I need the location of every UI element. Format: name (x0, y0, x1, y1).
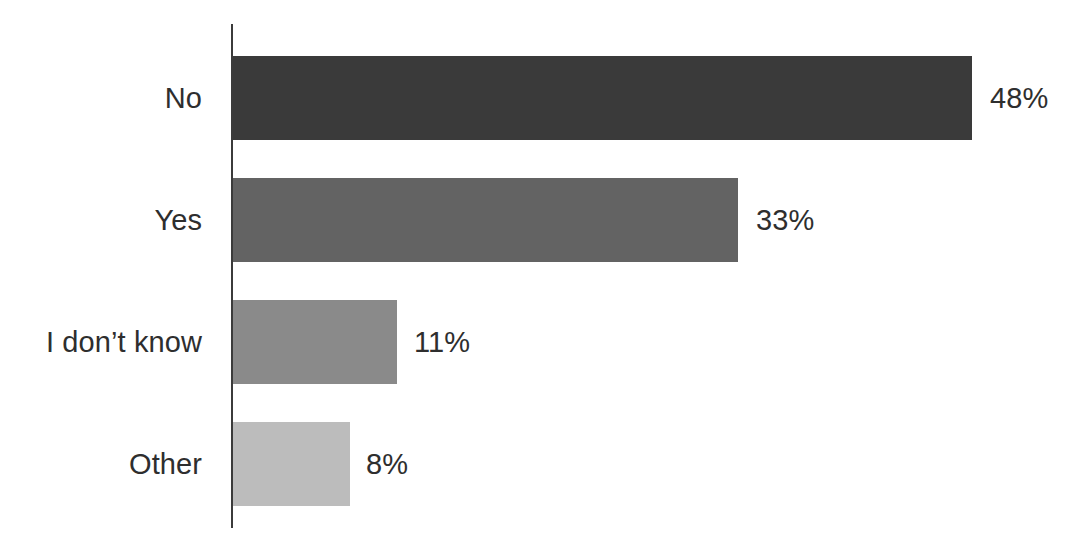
value-label-other: 8% (366, 422, 408, 506)
bar-i-dont-know (233, 300, 397, 384)
bar-row: I don’t know 11% (0, 300, 1067, 384)
bar-row: No 48% (0, 56, 1067, 140)
bar-row: Other 8% (0, 422, 1067, 506)
plot-area: No 48% Yes 33% I don’t know 11% Other 8% (0, 0, 1067, 548)
category-label-i-dont-know: I don’t know (46, 300, 202, 384)
value-label-i-dont-know: 11% (414, 300, 470, 384)
bar-no (233, 56, 972, 140)
value-label-no: 48% (990, 56, 1048, 140)
bar-row: Yes 33% (0, 178, 1067, 262)
category-label-no: No (165, 56, 202, 140)
category-label-other: Other (129, 422, 202, 506)
value-label-yes: 33% (756, 178, 814, 262)
bar-other (233, 422, 350, 506)
bar-chart: No 48% Yes 33% I don’t know 11% Other 8% (0, 0, 1067, 548)
category-label-yes: Yes (154, 178, 202, 262)
bar-yes (233, 178, 738, 262)
